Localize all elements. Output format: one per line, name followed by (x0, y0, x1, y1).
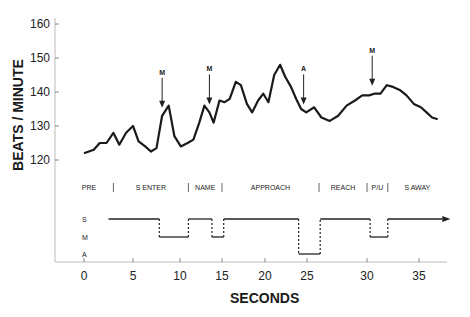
x-tick-label: 10 (173, 269, 187, 283)
x-axis-title: SECONDS (230, 290, 299, 306)
phase-label: APPROACH (251, 184, 290, 191)
svg-text:A: A (301, 65, 306, 72)
phase-label: S ENTER (136, 184, 166, 191)
annotation-arrow-m: M (159, 69, 165, 108)
x-tick-label: 25 (300, 269, 314, 283)
phase-label: NAME (195, 184, 216, 191)
y-tick-label: 120 (30, 153, 50, 167)
annotation-arrow-m: M (369, 47, 375, 86)
x-tick-label: 15 (215, 269, 229, 283)
x-tick-label: 20 (258, 269, 272, 283)
annotation-arrow-a: A (301, 65, 307, 104)
y-tick-label: 140 (30, 85, 50, 99)
x-tick-label: 0 (81, 269, 88, 283)
phase-label: REACH (331, 184, 356, 191)
phase-label: PRE (82, 184, 97, 191)
svg-text:M: M (369, 47, 375, 54)
y-axis-title: BEATS / MINUTE (4, 40, 32, 190)
state-level-label: S (82, 216, 87, 223)
x-tick-label: 35 (412, 269, 426, 283)
y-tick-label: 130 (30, 119, 50, 133)
state-trace (109, 219, 443, 254)
arrowhead-icon (442, 216, 450, 222)
y-axis-title-text: BEATS / MINUTE (10, 59, 26, 171)
x-tick-label: 5 (130, 269, 137, 283)
annotation-arrow-m: M (206, 65, 212, 104)
phase-label: P/U (372, 184, 384, 191)
y-tick-label: 150 (30, 51, 50, 65)
x-tick-label: 30 (360, 269, 374, 283)
svg-text:M: M (206, 65, 212, 72)
svg-text:M: M (159, 69, 165, 76)
y-tick-label: 160 (30, 17, 50, 31)
heart-rate-chart: 12013014015016005101520253035MMAMPRES EN… (0, 0, 470, 317)
state-level-label: M (82, 234, 88, 241)
heart-rate-line (84, 65, 438, 153)
state-level-label: A (82, 251, 87, 258)
phase-label: S AWAY (404, 184, 430, 191)
